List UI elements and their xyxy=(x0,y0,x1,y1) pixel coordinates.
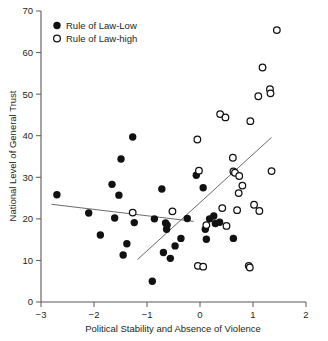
data-point xyxy=(108,181,115,188)
data-point xyxy=(53,191,60,198)
x-tick-label: 2 xyxy=(303,309,308,320)
legend-marker-filled-circle xyxy=(53,22,60,29)
data-point xyxy=(115,191,122,198)
y-tick-label: 40 xyxy=(22,130,33,141)
data-point xyxy=(216,218,223,225)
data-point xyxy=(274,27,281,34)
data-point xyxy=(184,215,191,222)
x-tick-label: −1 xyxy=(142,309,153,320)
data-point xyxy=(268,168,275,175)
chart-legend: Rule of Law-Low Rule of Law-high xyxy=(53,20,137,44)
data-point xyxy=(199,184,206,191)
x-axis-ticks: −3−2−1012 xyxy=(36,302,309,320)
data-point xyxy=(163,221,170,228)
x-tick-label: −3 xyxy=(36,309,47,320)
data-point xyxy=(259,64,266,71)
data-point xyxy=(171,242,178,249)
data-point xyxy=(177,235,184,242)
data-point xyxy=(223,223,230,230)
x-tick-label: 0 xyxy=(197,309,202,320)
data-point xyxy=(151,215,158,222)
data-point xyxy=(97,231,104,238)
data-point xyxy=(85,209,92,216)
data-point xyxy=(267,90,274,97)
data-point xyxy=(160,249,167,256)
y-tick-label: 70 xyxy=(22,5,33,16)
data-point xyxy=(256,208,263,215)
y-tick-label: 50 xyxy=(22,89,33,100)
scatter-plot-figure: 010203040506070 −3−2−1012 National Level… xyxy=(0,0,328,341)
data-point xyxy=(247,118,254,125)
data-point xyxy=(131,219,138,226)
data-point xyxy=(129,133,136,140)
chart-canvas: 010203040506070 −3−2−1012 National Level… xyxy=(0,0,328,341)
legend-label-rule-of-law-low: Rule of Law-Low xyxy=(66,20,137,31)
data-point xyxy=(123,240,130,247)
series-rule-of-law-low-points xyxy=(53,133,237,285)
data-point xyxy=(247,264,254,271)
data-point xyxy=(235,190,242,197)
data-point xyxy=(230,154,237,161)
data-point xyxy=(117,155,124,162)
x-axis-title: Political Stability and Absence of Viole… xyxy=(85,323,261,334)
y-tick-label: 0 xyxy=(28,296,33,307)
data-point xyxy=(194,136,201,143)
legend-marker-open-circle xyxy=(54,35,61,42)
trend-lines-group xyxy=(52,137,272,259)
data-point xyxy=(222,114,229,121)
legend-label-rule-of-law-high: Rule of Law-high xyxy=(66,33,137,44)
x-tick-label: 1 xyxy=(250,309,255,320)
data-point xyxy=(111,214,118,221)
y-axis-ticks: 010203040506070 xyxy=(22,5,41,307)
data-point xyxy=(203,222,210,229)
data-point xyxy=(210,212,217,219)
y-tick-label: 10 xyxy=(22,255,33,266)
data-point xyxy=(239,182,246,189)
data-point xyxy=(129,209,136,216)
y-tick-label: 30 xyxy=(22,172,33,183)
y-tick-label: 60 xyxy=(22,47,33,58)
data-point xyxy=(200,263,207,270)
data-point xyxy=(236,173,243,180)
y-tick-label: 20 xyxy=(22,213,33,224)
data-point xyxy=(167,255,174,262)
data-point xyxy=(158,185,165,192)
data-point xyxy=(251,201,258,208)
data-point xyxy=(149,278,156,285)
data-point xyxy=(119,251,126,258)
data-point xyxy=(234,207,241,214)
data-point xyxy=(203,236,210,243)
data-point xyxy=(230,235,237,242)
data-point xyxy=(196,167,203,174)
data-point xyxy=(219,205,226,212)
x-tick-label: −2 xyxy=(89,309,100,320)
data-point xyxy=(169,208,176,215)
y-axis-title: National Level of General Trust xyxy=(7,90,18,221)
data-point xyxy=(255,93,262,100)
series-rule-of-law-high-points xyxy=(129,27,280,271)
